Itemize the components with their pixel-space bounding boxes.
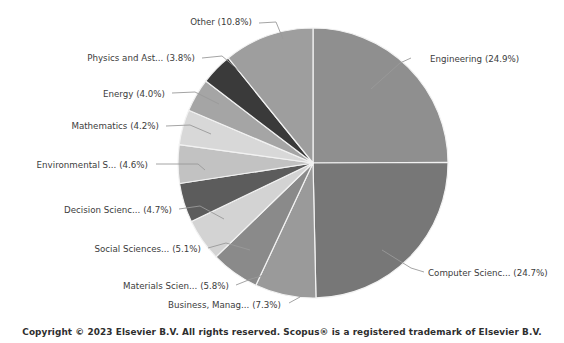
slice-label: Physics and Ast... (3.8%) [87, 53, 195, 63]
slice-label: Decision Scienc... (4.7%) [64, 205, 172, 215]
pie-chart-svg: Engineering (24.9%)Computer Scienc... (2… [0, 0, 564, 343]
pie-slices-group [178, 28, 448, 298]
slice-label: Other (10.8%) [190, 17, 252, 27]
slice-label: Business, Manag... (7.3%) [168, 300, 281, 310]
slice-label: Engineering (24.9%) [430, 54, 519, 64]
slice-label: Computer Scienc... (24.7%) [428, 268, 548, 278]
slice-label: Social Sciences... (5.1%) [94, 244, 201, 254]
copyright-footer: Copyright © 2023 Elsevier B.V. All right… [0, 327, 564, 337]
slice-label: Mathematics (4.2%) [71, 121, 159, 131]
slice-label: Energy (4.0%) [103, 89, 165, 99]
pie-chart-figure: Engineering (24.9%)Computer Scienc... (2… [0, 0, 564, 343]
pie-slice[interactable] [313, 28, 448, 163]
slice-label: Materials Scien... (5.8%) [123, 281, 229, 291]
slice-label: Environmental S... (4.6%) [37, 160, 148, 170]
